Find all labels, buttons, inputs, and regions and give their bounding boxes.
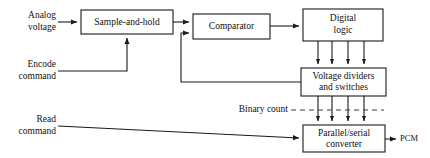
label-analog-voltage-line1: Analog: [28, 10, 56, 20]
block-diagram: Sample-and-hold Comparator Digital logic…: [0, 0, 430, 158]
block-label-voltage-dividers-line1: Voltage dividers: [313, 71, 375, 81]
block-label-parallel-serial-line1: Parallel/serial: [318, 128, 371, 138]
block-label-digital-logic-line1: Digital: [330, 13, 357, 23]
block-comparator[interactable]: Comparator: [193, 14, 270, 39]
label-read-command-line1: Read: [36, 114, 56, 124]
block-label-voltage-dividers-line2: and switches: [319, 82, 368, 92]
label-analog-voltage-line2: voltage: [28, 22, 56, 32]
block-parallel-serial-converter[interactable]: Parallel/serial converter: [303, 125, 385, 152]
wire-read-to-parallel-serial: [58, 126, 299, 138]
label-encode-command-line1: Encode: [28, 59, 57, 69]
label-encode-command: Encode command: [19, 59, 57, 81]
label-pcm-output: PCM: [400, 133, 418, 143]
wire-encode-to-sample: [58, 38, 127, 71]
label-read-command-line2: command: [19, 126, 57, 136]
wire-voltage-dividers-feedback-to-comparator: [181, 33, 301, 82]
block-label-sample-and-hold: Sample-and-hold: [94, 17, 160, 27]
label-binary-count: Binary count: [239, 104, 289, 114]
block-label-digital-logic-line2: logic: [334, 25, 353, 35]
diagram-canvas: Sample-and-hold Comparator Digital logic…: [0, 0, 430, 158]
block-label-parallel-serial-line2: converter: [326, 139, 363, 149]
label-read-command: Read command: [19, 114, 57, 136]
label-encode-command-line2: command: [19, 71, 57, 81]
block-digital-logic[interactable]: Digital logic: [303, 9, 383, 41]
block-voltage-dividers-and-switches[interactable]: Voltage dividers and switches: [301, 68, 386, 96]
block-label-comparator: Comparator: [209, 21, 255, 31]
label-analog-voltage: Analog voltage: [28, 10, 56, 32]
block-sample-and-hold[interactable]: Sample-and-hold: [81, 10, 173, 34]
